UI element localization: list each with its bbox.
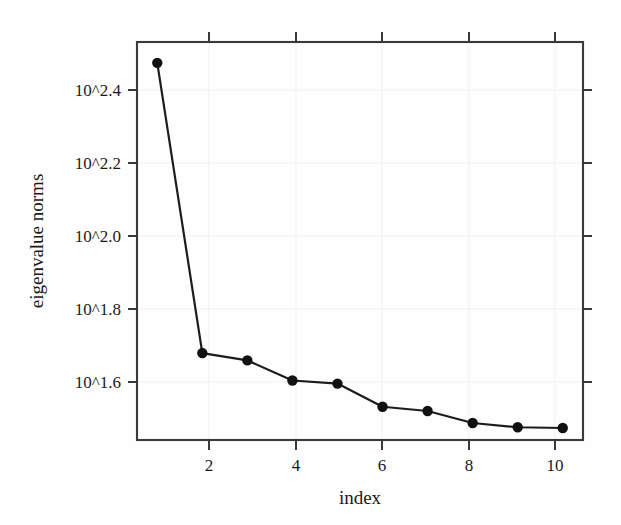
chart-background bbox=[0, 0, 621, 525]
data-point bbox=[287, 375, 297, 385]
xtick-label-4: 4 bbox=[292, 456, 301, 475]
ytick-label-2.0: 10^2.0 bbox=[75, 227, 121, 246]
ytick-label-1.6: 10^1.6 bbox=[75, 373, 121, 392]
y-axis-title: eigenvalue norms bbox=[26, 174, 47, 309]
data-point bbox=[377, 402, 387, 412]
xtick-label-10: 10 bbox=[547, 456, 564, 475]
data-point bbox=[467, 418, 477, 428]
x-axis-title: index bbox=[339, 487, 382, 508]
data-point bbox=[197, 348, 207, 358]
data-point bbox=[422, 406, 432, 416]
data-point bbox=[558, 423, 568, 433]
ytick-label-1.8: 10^1.8 bbox=[75, 300, 121, 319]
ytick-label-2.2: 10^2.2 bbox=[75, 154, 121, 173]
xtick-label-8: 8 bbox=[465, 456, 474, 475]
data-point bbox=[512, 422, 522, 432]
ytick-label-2.4: 10^2.4 bbox=[75, 81, 122, 100]
data-point bbox=[242, 355, 252, 365]
xtick-label-6: 6 bbox=[378, 456, 387, 475]
scree-plot-figure: 10^2.4 10^2.2 10^2.0 10^1.8 10^1.6 2 4 6… bbox=[0, 0, 621, 525]
chart-canvas: 10^2.4 10^2.2 10^2.0 10^1.8 10^1.6 2 4 6… bbox=[0, 0, 621, 525]
data-point bbox=[332, 378, 342, 388]
xtick-label-2: 2 bbox=[205, 456, 214, 475]
data-point bbox=[152, 58, 162, 68]
